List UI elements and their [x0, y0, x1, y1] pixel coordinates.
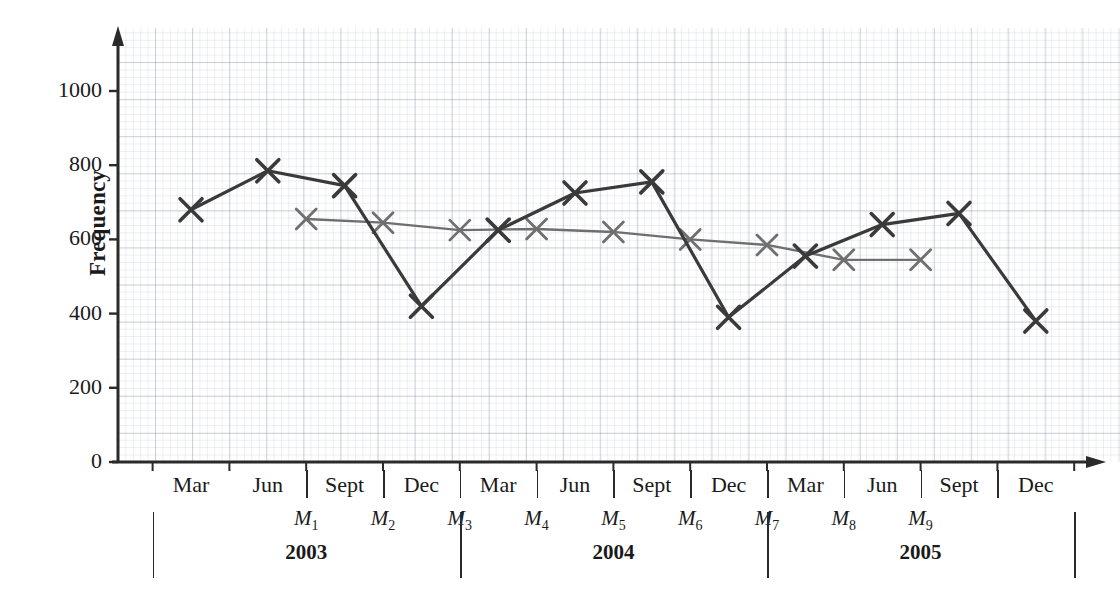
month-separator — [767, 470, 769, 498]
month-separator — [537, 470, 539, 498]
data-point-marker — [794, 245, 816, 267]
series-line — [306, 219, 920, 260]
month-separator — [921, 470, 923, 498]
series-quarterly-frequency — [180, 160, 1047, 332]
series-line — [191, 171, 1036, 321]
year-label-2005: 2005 — [871, 540, 971, 565]
data-point-marker — [410, 295, 432, 317]
chart-figure: Frequency 02004006008001000 MarJunSeptDe… — [0, 0, 1120, 596]
axes — [112, 26, 1106, 468]
moving-average-label-M4: M4 — [497, 506, 577, 534]
year-bracket-bar — [1074, 512, 1076, 578]
data-point-marker — [718, 306, 740, 328]
month-separator — [844, 470, 846, 498]
x-month-label-11: Dec — [991, 472, 1081, 498]
moving-average-label-M9: M9 — [881, 506, 961, 534]
year-bracket-bar — [153, 512, 155, 578]
moving-average-label-M2: M2 — [343, 506, 423, 534]
data-point-marker — [1025, 310, 1047, 332]
data-point-marker — [180, 199, 202, 221]
year-bracket-bar — [767, 512, 769, 578]
moving-average-label-M8: M8 — [804, 506, 884, 534]
moving-average-label-M1: M1 — [266, 506, 346, 534]
moving-average-label-M5: M5 — [573, 506, 653, 534]
month-separator — [690, 470, 692, 498]
month-separator — [997, 470, 999, 498]
year-label-2003: 2003 — [256, 540, 356, 565]
year-bracket-bar — [460, 512, 462, 578]
month-separator — [383, 470, 385, 498]
month-separator — [613, 470, 615, 498]
year-label-2004: 2004 — [563, 540, 663, 565]
month-separator — [460, 470, 462, 498]
month-separator — [306, 470, 308, 498]
moving-average-label-M6: M6 — [650, 506, 730, 534]
